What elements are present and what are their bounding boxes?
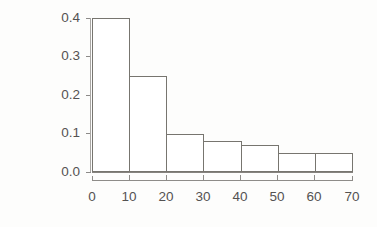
bar-60-70: [315, 153, 353, 172]
x-axis-cap-right: [352, 176, 353, 181]
bar-0-10: [92, 18, 130, 172]
x-tick-label-20: 20: [146, 190, 186, 204]
x-tick-mark-30: [203, 175, 204, 180]
x-tick-label-40: 40: [220, 190, 260, 204]
x-tick-mark-40: [240, 175, 241, 180]
bar-50-60: [278, 153, 316, 172]
plot-area: [92, 18, 352, 172]
y-tick-label-0.0: 0.0: [42, 165, 80, 179]
histogram-figure: relative frequency 0.4 0.3 0.2 0.1 0.0 0: [0, 0, 377, 227]
x-tick-mark-60: [314, 175, 315, 180]
bar-30-40: [203, 141, 241, 172]
x-tick-label-0: 0: [72, 190, 112, 204]
x-tick-mark-20: [166, 175, 167, 180]
bar-20-30: [166, 134, 204, 173]
x-tick-mark-50: [277, 175, 278, 180]
x-tick-mark-10: [129, 175, 130, 180]
plot-baseline: [92, 172, 353, 173]
bar-40-50: [241, 145, 279, 172]
y-tick-label-0.4: 0.4: [42, 11, 80, 25]
x-tick-label-50: 50: [257, 190, 297, 204]
y-tick-label-0.2: 0.2: [42, 88, 80, 102]
x-tick-label-60: 60: [294, 190, 334, 204]
x-tick-label-30: 30: [183, 190, 223, 204]
y-tick-label-0.3: 0.3: [42, 49, 80, 63]
bar-10-20: [129, 76, 167, 172]
x-tick-label-70: 70: [332, 190, 372, 204]
x-tick-label-10: 10: [109, 190, 149, 204]
y-tick-label-0.1: 0.1: [42, 126, 80, 140]
x-axis-line: [92, 180, 353, 181]
y-axis-line: [90, 18, 91, 172]
x-axis-cap-left: [92, 176, 93, 181]
y-tick-mark-0.0: [86, 172, 91, 173]
